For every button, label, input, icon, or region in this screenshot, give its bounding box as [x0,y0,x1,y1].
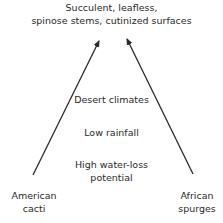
high-water-loss-label: High water-loss potential [0,158,223,184]
low-rainfall-label: Low rainfall [0,126,223,139]
american-cacti-label: American cacti [6,189,62,215]
top-label: Succulent, leafless, spinose stems, cuti… [0,1,223,27]
left-arrow [33,41,99,175]
african-spurges-label: African spurges [172,189,222,215]
right-arrow [127,39,193,174]
desert-climates-label: Desert climates [0,93,223,106]
